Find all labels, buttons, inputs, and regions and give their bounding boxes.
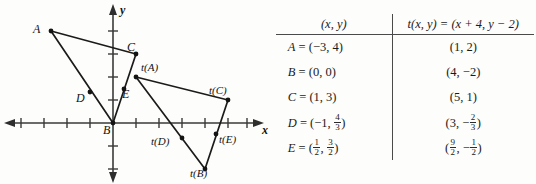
figure-and-table-panel: A B C D E t(A) t(B) t(C) t(D) t(E) x y (…: [0, 0, 536, 184]
point-label-tE: t(E): [219, 134, 236, 145]
table-row: C = (1, 3) (5, 1): [276, 85, 534, 110]
table-row: E = (12, 32) (92, −12): [276, 135, 534, 160]
fraction-one-half-neg: 12: [470, 138, 477, 157]
fraction-one-half: 12: [313, 138, 320, 157]
table-row: A = (−3, 4) (1, 2): [276, 35, 534, 61]
graph-svg: [0, 0, 272, 184]
point-label-tD: t(D): [151, 136, 169, 147]
table-row: B = (0, 0) (4, −2): [276, 60, 534, 85]
point-label-tA: t(A): [141, 62, 158, 73]
cell-source-B: B = (0, 0): [276, 60, 392, 85]
y-axis-label: y: [120, 4, 125, 16]
fraction-two-thirds: 23: [470, 113, 477, 132]
column-header-image: t(x, y) = (x + 4, y − 2): [392, 14, 534, 35]
table-row: D = (−1, 43) (3, −23): [276, 110, 534, 135]
point-label-tB: t(B): [190, 168, 207, 179]
mapping-table: (x, y) t(x, y) = (x + 4, y − 2) A = (−3,…: [276, 14, 534, 160]
point-label-A: A: [33, 23, 40, 35]
mapping-table-panel: (x, y) t(x, y) = (x + 4, y − 2) A = (−3,…: [276, 0, 536, 184]
point-label-E: E: [122, 88, 129, 100]
x-axis-left-arrowhead: [4, 119, 15, 127]
row-source-D-prefix: (−1,: [310, 116, 331, 130]
point-label-D: D: [76, 92, 85, 104]
row-image-B: (4, −2): [446, 65, 480, 79]
point-marker-D: [88, 90, 93, 95]
row-point-A: A: [288, 40, 296, 54]
column-header-source: (x, y): [276, 14, 392, 35]
row-source-E-prefix: (: [309, 141, 313, 155]
point-marker-tE: [214, 132, 219, 137]
point-label-C: C: [127, 41, 135, 53]
cell-source-A: A = (−3, 4): [276, 35, 392, 61]
row-source-A: (−3, 4): [309, 40, 343, 54]
cell-image-D: (3, −23): [392, 110, 534, 135]
column-header-image-prefix: t(x, y) = (x + 4, y: [408, 17, 494, 31]
coordinate-plane-figure: A B C D E t(A) t(B) t(C) t(D) t(E) x y: [0, 0, 272, 184]
point-marker-tD: [180, 136, 185, 141]
point-marker-tC: [226, 98, 231, 103]
row-image-D-prefix: (3, −: [446, 116, 470, 130]
cell-image-C: (5, 1): [392, 85, 534, 110]
point-label-B: B: [103, 124, 110, 136]
cell-source-E: E = (12, 32): [276, 135, 392, 160]
point-marker-A: [49, 29, 54, 34]
row-source-B: (0, 0): [309, 65, 336, 79]
cell-image-B: (4, −2): [392, 60, 534, 85]
original-triangle: [51, 31, 136, 123]
x-axis-label: x: [262, 124, 268, 136]
cell-image-A: (1, 2): [392, 35, 534, 61]
row-point-E: E: [288, 141, 296, 155]
point-marker-B: [111, 121, 116, 126]
row-point-C: C: [288, 90, 296, 104]
table-header-row: (x, y) t(x, y) = (x + 4, y − 2): [276, 14, 534, 35]
fraction-four-thirds: 43: [334, 113, 341, 132]
column-header-image-suffix: 2): [509, 17, 519, 31]
fraction-nine-halves: 92: [450, 138, 457, 157]
cell-image-E: (92, −12): [392, 135, 534, 160]
point-marker-tA: [134, 75, 139, 80]
row-image-C: (5, 1): [450, 90, 477, 104]
y-axis-top-arrowhead: [109, 4, 117, 15]
row-point-B: B: [288, 65, 296, 79]
row-image-A: (1, 2): [450, 40, 477, 54]
y-axis-bottom-arrowhead: [109, 172, 117, 183]
cell-source-C: C = (1, 3): [276, 85, 392, 110]
fraction-three-halves: 32: [327, 138, 334, 157]
row-point-D: D: [288, 116, 297, 130]
minus-sign: −: [494, 17, 509, 31]
point-label-tC: t(C): [209, 85, 227, 96]
column-header-source-text: (x, y): [321, 17, 347, 31]
row-source-C: (1, 3): [309, 90, 336, 104]
cell-source-D: D = (−1, 43): [276, 110, 392, 135]
